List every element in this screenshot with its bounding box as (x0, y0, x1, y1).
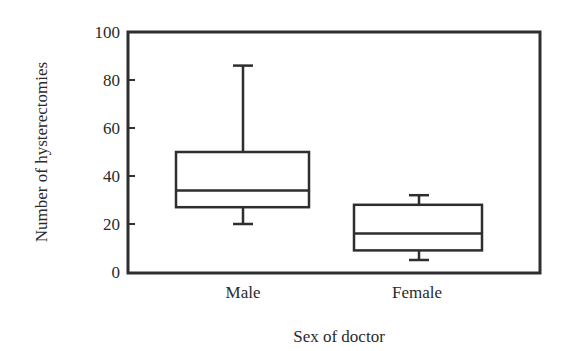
interquartile-box (176, 152, 309, 207)
y-axis-title: Number of hysterectomies (32, 62, 51, 242)
x-axis-categories: MaleFemale (226, 283, 442, 302)
x-axis-title: Sex of doctor (293, 327, 385, 346)
y-tick-label: 80 (103, 71, 120, 90)
x-category-label: Female (392, 283, 442, 302)
y-tick-label: 0 (112, 263, 121, 282)
box-male (176, 66, 309, 224)
box-series (176, 66, 482, 260)
y-tick-label: 60 (103, 119, 120, 138)
box-female (354, 195, 482, 260)
box-plot-chart: 020406080100 MaleFemale Sex of doctor Nu… (0, 0, 564, 351)
interquartile-box (354, 205, 482, 251)
y-tick-label: 20 (103, 215, 120, 234)
x-category-label: Male (226, 283, 261, 302)
y-tick-label: 40 (103, 167, 120, 186)
y-tick-label: 100 (95, 23, 121, 42)
